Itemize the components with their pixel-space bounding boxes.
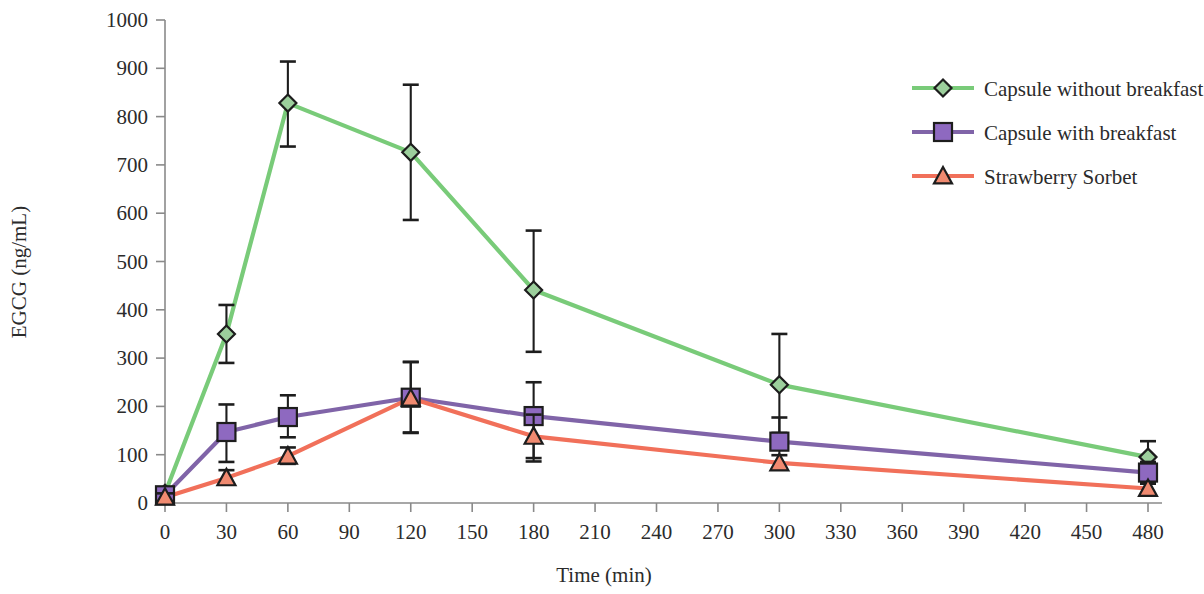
legend-item-2[interactable]: Strawberry Sorbet (912, 165, 1138, 189)
data-point-marker-diamond (771, 376, 788, 393)
data-point-marker-square (770, 433, 788, 451)
chart-container: 01002003004005006007008009001000 0306090… (0, 0, 1204, 594)
data-point-marker-diamond (935, 80, 952, 97)
x-tick-label: 120 (395, 520, 427, 544)
y-tick-label: 800 (117, 105, 149, 129)
y-tick-label: 700 (117, 153, 149, 177)
y-tick-label: 400 (117, 298, 149, 322)
data-point-marker-square (934, 123, 952, 141)
series-points-2 (156, 362, 1157, 505)
data-point-marker-square (217, 423, 235, 441)
x-tick-label: 360 (887, 520, 919, 544)
y-axis-tick-labels: 01002003004005006007008009001000 (106, 8, 148, 515)
data-point-marker-square (279, 408, 297, 426)
x-tick-label: 210 (579, 520, 611, 544)
egcg-time-line-chart: 01002003004005006007008009001000 0306090… (0, 0, 1204, 594)
data-point-marker-diamond (218, 325, 235, 342)
x-tick-label: 30 (216, 520, 237, 544)
legend-item-label: Capsule without breakfast (984, 77, 1203, 101)
x-tick-label: 60 (277, 520, 298, 544)
x-axis-tick-labels: 0306090120150180210240270300330360390420… (160, 520, 1164, 544)
y-tick-label: 1000 (106, 8, 148, 32)
x-tick-label: 390 (948, 520, 980, 544)
x-tick-label: 330 (825, 520, 857, 544)
y-tick-label: 300 (117, 346, 149, 370)
legend-item-0[interactable]: Capsule without breakfast (912, 77, 1203, 101)
legend-item-label: Capsule with breakfast (984, 121, 1177, 145)
x-tick-label: 450 (1071, 520, 1103, 544)
y-tick-label: 100 (117, 443, 149, 467)
legend-item-label: Strawberry Sorbet (984, 165, 1138, 189)
x-tick-label: 90 (339, 520, 360, 544)
legend-item-1[interactable]: Capsule with breakfast (912, 121, 1177, 145)
y-tick-label: 0 (138, 491, 149, 515)
series-line-0 (165, 103, 1148, 493)
series-points-1 (156, 362, 1157, 504)
y-axis-title: EGCG (ng/mL) (7, 206, 31, 338)
y-tick-label: 500 (117, 250, 149, 274)
x-axis-title: Time (min) (556, 563, 651, 587)
x-tick-label: 0 (160, 520, 171, 544)
data-point-marker-diamond (279, 95, 296, 112)
x-tick-label: 270 (702, 520, 734, 544)
x-tick-label: 180 (518, 520, 550, 544)
x-tick-label: 480 (1132, 520, 1164, 544)
x-tick-label: 300 (764, 520, 796, 544)
y-tick-label: 900 (117, 56, 149, 80)
y-tick-label: 200 (117, 394, 149, 418)
x-tick-label: 150 (456, 520, 488, 544)
x-tick-label: 240 (641, 520, 673, 544)
chart-legend: Capsule without breakfastCapsule with br… (912, 77, 1203, 189)
x-tick-label: 420 (1009, 520, 1041, 544)
y-tick-label: 600 (117, 201, 149, 225)
